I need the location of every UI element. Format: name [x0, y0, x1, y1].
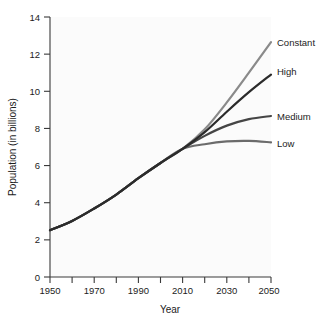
- x-axis-ticks: [50, 277, 271, 283]
- population-projection-chart: 14 12 10 8 6 4 2 0 1950 1970 19: [0, 0, 335, 324]
- x-tick-label: 2030: [216, 285, 237, 296]
- series-labels: Constant High Medium Low: [277, 37, 315, 149]
- series-label-high: High: [277, 66, 297, 77]
- y-tick-label: 4: [35, 197, 40, 208]
- plot-area-background: [50, 17, 271, 277]
- x-tick-label: 1990: [128, 285, 149, 296]
- y-tick-label: 2: [35, 234, 40, 245]
- y-axis-ticks: [44, 17, 50, 277]
- x-axis-tick-labels: 1950 1970 1990 2010 2030 2050: [39, 285, 279, 296]
- chart-canvas: 14 12 10 8 6 4 2 0 1950 1970 19: [0, 0, 335, 324]
- y-axis-title: Population (in billions): [7, 98, 18, 196]
- y-axis-tick-labels: 14 12 10 8 6 4 2 0: [29, 12, 40, 283]
- x-tick-label: 2010: [172, 285, 193, 296]
- y-tick-label: 8: [35, 123, 40, 134]
- x-axis-title: Year: [160, 304, 181, 315]
- y-tick-label: 10: [29, 86, 40, 97]
- series-label-low: Low: [277, 138, 295, 149]
- y-tick-label: 12: [29, 49, 40, 60]
- y-tick-label: 6: [35, 160, 40, 171]
- y-tick-label: 14: [29, 12, 40, 23]
- x-tick-label: 2050: [258, 285, 279, 296]
- x-tick-label: 1970: [84, 285, 105, 296]
- y-tick-label: 0: [35, 272, 40, 283]
- x-tick-label: 1950: [39, 285, 60, 296]
- series-label-constant: Constant: [277, 37, 315, 48]
- series-label-medium: Medium: [277, 111, 311, 122]
